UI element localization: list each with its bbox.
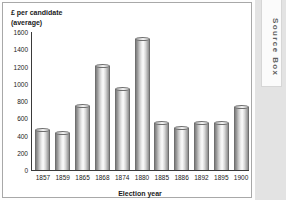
bar-cap	[135, 37, 150, 41]
y-tick-label: 600	[17, 115, 28, 122]
bar-cap	[234, 105, 249, 109]
y-axis-label: £ per candidate (average)	[11, 8, 62, 27]
bar-cap	[174, 126, 189, 130]
bar-cap	[214, 121, 229, 125]
x-axis-line	[31, 170, 249, 171]
x-axis-label: Election year	[31, 190, 249, 197]
chart-panel: £ per candidate (average) 02004006008001…	[2, 2, 252, 198]
x-tick-label: 1859	[52, 174, 74, 181]
bar-cap	[75, 104, 90, 108]
bar-body	[154, 123, 169, 170]
source-box-label: Source Box	[261, 4, 280, 88]
y-tick-label: 1600	[14, 29, 28, 36]
bar-body	[35, 130, 50, 170]
x-tick-label: 1874	[111, 174, 133, 181]
bar-cap	[55, 131, 70, 135]
x-tick-label: 1895	[210, 174, 232, 181]
bar-body	[174, 128, 189, 170]
x-tick-label: 1900	[230, 174, 252, 181]
y-axis-label-line1: £ per candidate	[11, 8, 62, 18]
x-tick-label: 1892	[190, 174, 212, 181]
y-tick-label: 400	[17, 132, 28, 139]
x-tick-label: 1868	[91, 174, 113, 181]
bar-body	[234, 107, 249, 170]
x-tick-label: 1865	[72, 174, 94, 181]
y-tick-label: 1400	[14, 46, 28, 53]
bar-cap	[115, 87, 130, 91]
chart-screenshot: £ per candidate (average) 02004006008001…	[0, 0, 286, 200]
bar-body	[135, 39, 150, 170]
bar-body	[115, 89, 130, 170]
x-tick-label: 1885	[151, 174, 173, 181]
bar-cap	[35, 128, 50, 132]
y-tick-label: 200	[17, 149, 28, 156]
bar-cap	[194, 121, 209, 125]
x-tick-label: 1857	[32, 174, 54, 181]
y-tick-label: 0	[24, 167, 28, 174]
bar-body	[95, 66, 110, 170]
bar-body	[194, 123, 209, 170]
y-tick-label: 800	[17, 98, 28, 105]
bar-series	[31, 32, 249, 170]
y-tick-label: 1000	[14, 80, 28, 87]
x-tick-label: 1880	[131, 174, 153, 181]
bar-body	[214, 123, 229, 170]
x-tick-label: 1886	[171, 174, 193, 181]
bar-body	[75, 106, 90, 170]
bar-body	[55, 133, 70, 170]
bar-cap	[95, 64, 110, 68]
y-axis-label-line2: (average)	[11, 18, 62, 28]
source-box-sidebar: Source Box	[255, 0, 286, 200]
plot-area: 02004006008001000120014001600 1857185918…	[31, 32, 249, 171]
y-tick-label: 1200	[14, 63, 28, 70]
bar-cap	[154, 121, 169, 125]
